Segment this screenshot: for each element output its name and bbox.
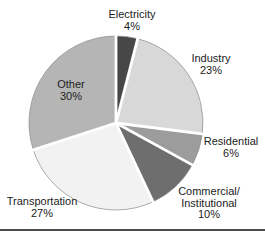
label-industry: Industry 23% xyxy=(169,53,253,76)
slice-percent: 6% xyxy=(189,148,265,160)
label-transportation: Transportation 27% xyxy=(0,196,84,219)
label-commercial-institutional: Commercial/ Institutional 10% xyxy=(167,186,251,221)
label-other: Other 30% xyxy=(29,79,113,102)
label-electricity: Electricity 4% xyxy=(90,9,174,32)
slice-name: Residential xyxy=(189,136,265,148)
slice-percent: 23% xyxy=(169,65,253,77)
slice-name: Industry xyxy=(169,53,253,65)
label-residential: Residential 6% xyxy=(189,136,265,159)
slice-name: Other xyxy=(29,79,113,91)
bottom-rule xyxy=(0,229,265,231)
slice-name: Commercial/ xyxy=(167,186,251,198)
pie-chart-figure: Electricity 4% Industry 23% Residential … xyxy=(0,0,265,234)
slice-name: Electricity xyxy=(90,9,174,21)
slice-percent: 27% xyxy=(0,208,84,220)
slice-name: Transportation xyxy=(0,196,84,208)
slice-percent: 4% xyxy=(90,21,174,33)
slice-percent: 30% xyxy=(29,91,113,103)
slice-percent: 10% xyxy=(167,209,251,221)
